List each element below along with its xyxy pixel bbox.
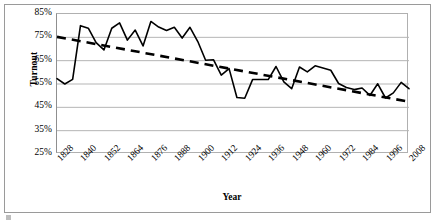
turnout-series-line [57,21,409,98]
y-tick-label: 25% [2,148,52,158]
chart-figure: Turnout 85%75%65%55%45%35%25% 1828184018… [0,0,436,222]
page-corner-mark [6,215,11,220]
chart-canvas [57,14,409,154]
y-tick-label: 55% [2,78,52,88]
x-axis-tick-labels: 1828184018521864187618881900191219241936… [56,153,408,193]
y-tick-label: 85% [2,8,52,18]
y-axis-tick-labels: 85%75%65%55%45%35%25% [0,13,52,153]
plot-area [56,13,408,153]
x-axis-title: Year [56,192,408,202]
y-tick-label: 35% [2,125,52,135]
trendline-dashed [57,37,409,102]
y-tick-label: 65% [2,55,52,65]
y-tick-label: 45% [2,101,52,111]
y-tick-label: 75% [2,31,52,41]
